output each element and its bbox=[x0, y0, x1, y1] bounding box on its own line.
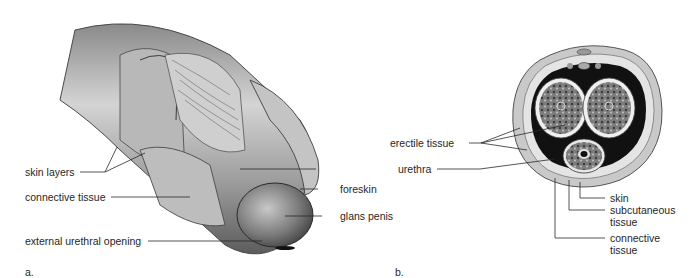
label-foreskin: foreskin bbox=[340, 183, 377, 195]
label-connective-tissue-b-line2: tissue bbox=[610, 244, 637, 256]
label-subcutaneous-tissue-line1: subcutaneous bbox=[610, 204, 675, 216]
label-skin-layers: skin layers bbox=[25, 166, 75, 178]
label-connective-tissue-b-line1: connective bbox=[610, 232, 660, 244]
label-external-urethral-opening: external urethral opening bbox=[25, 235, 141, 247]
label-skin: skin bbox=[610, 192, 629, 204]
panel-a-label: a. bbox=[25, 266, 34, 278]
panel-b-label: b. bbox=[395, 266, 404, 278]
panel-b-illustration bbox=[513, 46, 662, 187]
label-subcutaneous-tissue-line2: tissue bbox=[610, 216, 637, 228]
label-erectile-tissue: erectile tissue bbox=[390, 137, 454, 149]
label-connective-tissue: connective tissue bbox=[25, 191, 106, 203]
label-urethra: urethra bbox=[398, 163, 431, 175]
panel-a-illustration bbox=[60, 24, 319, 254]
label-glans-penis: glans penis bbox=[340, 210, 393, 222]
